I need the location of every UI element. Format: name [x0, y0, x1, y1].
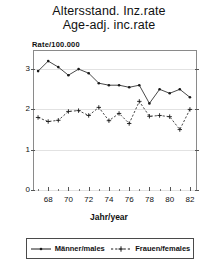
- series-line-males: [38, 61, 190, 103]
- y-tick-label: 3: [16, 64, 30, 73]
- chart-title: Altersstand. Inz.rate Age-adj. inc.rate: [0, 0, 218, 32]
- x-tick-label: 78: [145, 195, 154, 204]
- legend-label-males: Männer/males: [55, 244, 105, 253]
- x-tick-label: 82: [185, 195, 194, 204]
- data-point-males: [77, 68, 80, 71]
- data-point-males: [179, 88, 182, 91]
- data-point-females: [76, 108, 80, 112]
- data-point-females: [36, 115, 40, 119]
- y-tick-label: 2: [16, 104, 30, 113]
- data-point-females: [97, 105, 101, 109]
- data-point-males: [118, 84, 121, 87]
- chart-legend: Männer/males Frauen/females: [26, 238, 194, 259]
- data-point-males: [57, 66, 60, 69]
- legend-label-females: Frauen/females: [135, 244, 190, 253]
- data-point-males: [37, 70, 40, 73]
- series-line-females: [38, 101, 190, 129]
- plot-inner: [34, 51, 196, 190]
- series-layer: [34, 51, 196, 190]
- data-point-females: [46, 119, 50, 123]
- data-point-males: [189, 96, 192, 99]
- data-point-females: [127, 121, 131, 125]
- data-point-males: [87, 72, 90, 75]
- y-tick-label: 0: [16, 185, 30, 194]
- data-point-males: [67, 74, 70, 77]
- data-point-males: [158, 88, 161, 91]
- data-point-males: [138, 84, 141, 87]
- data-point-males: [128, 86, 131, 89]
- x-tick-label: 72: [84, 195, 93, 204]
- x-tick-label: 68: [44, 195, 53, 204]
- legend-entry-males: Männer/males: [30, 244, 105, 253]
- data-point-males: [168, 92, 171, 95]
- data-point-females: [137, 99, 141, 103]
- x-tick-label: 76: [125, 195, 134, 204]
- y-tick-mark: [31, 190, 35, 191]
- data-point-males: [47, 60, 50, 63]
- y-tick-mark-right: [195, 190, 199, 191]
- data-point-females: [107, 119, 111, 123]
- title-line-english: Age-adj. inc.rate: [0, 18, 218, 32]
- x-axis-title: Jahr/year: [0, 212, 218, 222]
- data-point-females: [157, 113, 161, 117]
- data-point-females: [188, 107, 192, 111]
- data-point-males: [98, 82, 101, 85]
- title-line-german: Altersstand. Inz.rate: [0, 4, 218, 18]
- legend-line-females-icon: [110, 245, 132, 253]
- legend-line-males-icon: [30, 245, 52, 253]
- y-tick-label: 1: [16, 145, 30, 154]
- y-axis-label: Rate/100.000: [32, 40, 80, 49]
- x-tick-label: 74: [104, 195, 113, 204]
- plot-area: [33, 50, 197, 191]
- data-point-males: [108, 84, 111, 87]
- legend-entry-females: Frauen/females: [110, 244, 190, 253]
- data-point-males: [148, 102, 151, 105]
- x-tick-label: 70: [64, 195, 73, 204]
- data-point-females: [56, 118, 60, 122]
- x-tick-label: 80: [165, 195, 174, 204]
